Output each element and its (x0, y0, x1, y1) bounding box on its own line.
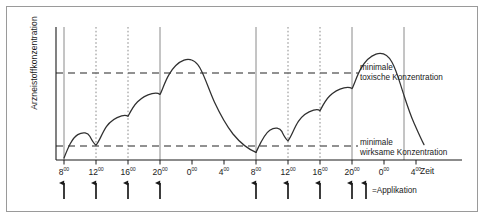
x-tick-label: 2000 (337, 166, 367, 177)
x-axis-ticks (64, 160, 416, 165)
min-toxic-concentration-label: minimale toxische Konzentration (360, 63, 443, 82)
figure-root: Arzneistoffkonzentration 800 1200 1600 2… (0, 0, 486, 220)
min-toxic-line1: minimale (360, 63, 443, 73)
x-tick-label: 1600 (305, 166, 335, 177)
application-arrows (64, 183, 366, 199)
x-tick-label: 800 (49, 166, 79, 177)
x-tick-label: 2000 (145, 166, 175, 177)
x-tick-label: 000 (177, 166, 207, 177)
x-tick-label: 1200 (81, 166, 111, 177)
x-tick-label: 000 (369, 166, 399, 177)
min-effective-line2: wirksame Konzentration (360, 148, 447, 158)
x-tick-label: 800 (241, 166, 271, 177)
vertical-gridlines (64, 27, 404, 160)
min-toxic-line2: toxische Konzentration (360, 73, 443, 83)
x-tick-label: 400 (209, 166, 239, 177)
x-tick-label: 1600 (113, 166, 143, 177)
x-tick-label: 1200 (273, 166, 303, 177)
x-axis-label: Zeit (420, 166, 434, 176)
application-legend-label: =Applikation (372, 186, 417, 195)
y-axis-label: Arzneistoffkonzentration (29, 3, 39, 123)
min-effective-concentration-label: minimale wirksame Konzentration (360, 138, 447, 157)
min-effective-line1: minimale (360, 138, 447, 148)
